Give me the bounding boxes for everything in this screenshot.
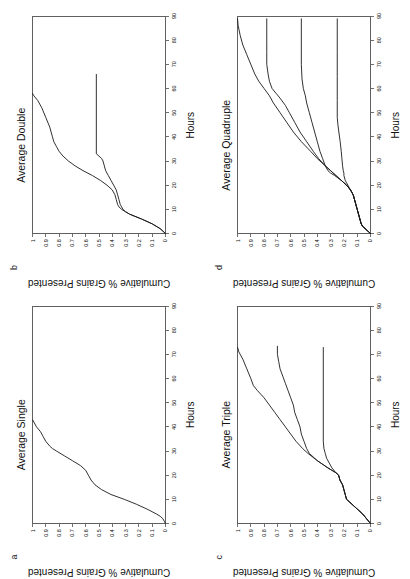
plot-frame [32,16,165,234]
y-tick-label: 0.9 [248,529,254,537]
y-axis-label-text-b: Cumulative % Grains Presented [27,277,169,288]
y-tick-label: 0.2 [136,529,142,537]
x-tick-label: 50 [376,110,382,116]
y-tick-label: 0.5 [301,529,307,537]
x-tick-label: 40 [376,423,382,429]
y-tick-label: 0.3 [327,239,333,247]
x-tick-label: 10 [376,496,382,502]
panel-grid: a Average Single Cumulative % Grains Pre… [0,0,410,579]
y-axis-label-d: Cumulative % Grains Presented [237,276,370,290]
curve-single [32,419,165,523]
y-tick-label: 0.8 [56,529,62,537]
figure-canvas: a Average Single Cumulative % Grains Pre… [0,0,410,579]
y-tick-label: 0.1 [354,239,360,247]
y-axis-label-c: Cumulative % Grains Presented [237,565,370,579]
y-tick-label: 0.7 [274,529,280,537]
x-tick-label: 10 [171,206,177,212]
curve-double-lower [96,74,165,234]
y-tick-label: 0.5 [96,239,102,247]
x-tick-label: 0 [171,232,177,235]
y-tick-label: 0.9 [248,239,254,247]
plot-area-d: 010203040506070809000.10.20.30.40.50.60.… [237,16,370,234]
x-tick-label: 20 [171,182,177,188]
y-tick-label: 0.5 [96,529,102,537]
x-tick-label: 80 [376,37,382,43]
x-tick-label: 60 [376,85,382,91]
y-axis-label-text-d: Cumulative % Grains Presented [232,277,374,288]
x-axis-label-c: Hours [389,306,400,524]
panel-title-a: Average Single [14,290,26,579]
y-tick-label: 0.9 [43,239,49,247]
x-tick-label: 40 [171,134,177,140]
y-tick-label: 0 [162,529,168,532]
panel-title-b: Average Double [14,0,26,290]
x-tick-label: 40 [171,423,177,429]
curve-quad-3 [301,18,370,233]
x-tick-label: 30 [171,447,177,453]
y-tick-label: 0.6 [287,239,293,247]
x-tick-label: 80 [171,327,177,333]
y-tick-label: 0.6 [287,529,293,537]
y-tick-label: 0.2 [136,239,142,247]
panel-a: a Average Single Cumulative % Grains Pre… [0,290,205,579]
y-tick-label: 0.2 [341,239,347,247]
x-tick-label: 60 [376,375,382,381]
x-tick-label: 20 [376,182,382,188]
curve-quad-1 [237,18,370,233]
x-tick-label: 50 [171,110,177,116]
x-tick-label: 90 [171,13,177,19]
x-tick-label: 60 [171,375,177,381]
x-tick-label: 90 [171,302,177,308]
plot-frame [237,16,370,234]
x-tick-label: 30 [376,447,382,453]
x-tick-label: 20 [376,472,382,478]
plot-area-a: 010203040506070809000.10.20.30.40.50.60.… [32,306,165,524]
y-tick-label: 1 [234,239,240,242]
x-tick-label: 0 [376,521,382,524]
x-axis-label-b: Hours [184,16,195,234]
y-tick-label: 0.5 [301,239,307,247]
y-axis-label-text-c: Cumulative % Grains Presented [232,566,374,577]
y-tick-label: 0.1 [149,529,155,537]
y-tick-label: 0 [162,239,168,242]
y-tick-label: 0.2 [341,529,347,537]
x-tick-label: 10 [376,206,382,212]
x-tick-label: 40 [376,134,382,140]
x-tick-label: 0 [376,232,382,235]
x-tick-label: 70 [376,61,382,67]
plot-area-b: 010203040506070809000.10.20.30.40.50.60.… [32,16,165,234]
x-tick-label: 30 [376,158,382,164]
y-tick-label: 0.3 [122,529,128,537]
y-tick-label: 0.3 [122,239,128,247]
plot-svg-b: 010203040506070809000.10.20.30.40.50.60.… [32,16,165,234]
x-tick-label: 90 [376,302,382,308]
y-axis-label-a: Cumulative % Grains Presented [32,565,165,579]
y-tick-label: 0.9 [43,529,49,537]
plot-frame [32,306,165,524]
curve-triple-upper [237,347,370,523]
figure-rotation-frame: a Average Single Cumulative % Grains Pre… [0,0,410,579]
plot-svg-d: 010203040506070809000.10.20.30.40.50.60.… [237,16,370,234]
plot-frame [237,306,370,524]
x-tick-label: 30 [171,158,177,164]
x-tick-label: 80 [171,37,177,43]
y-tick-label: 0.1 [149,239,155,247]
y-tick-label: 0.8 [261,239,267,247]
curve-quad-4 [337,18,370,233]
panel-b: b Average Double Cumulative % Grains Pre… [0,0,205,290]
x-tick-label: 70 [171,61,177,67]
panel-d: d Average Quadruple Cumulative % Grains … [205,0,410,290]
panel-title-c: Average Triple [219,290,231,579]
y-tick-label: 0.7 [69,529,75,537]
y-tick-label: 1 [29,239,35,242]
x-tick-label: 90 [376,13,382,19]
panel-c: c Average Triple Cumulative % Grains Pre… [205,290,410,579]
curve-double-upper [32,93,165,233]
y-tick-label: 0.4 [109,239,115,247]
y-tick-label: 0.7 [69,239,75,247]
y-tick-label: 0.6 [82,239,88,247]
x-tick-label: 50 [171,399,177,405]
y-tick-label: 1 [234,529,240,532]
plot-svg-c: 010203040506070809000.10.20.30.40.50.60.… [237,306,370,524]
y-axis-label-text-a: Cumulative % Grains Presented [27,566,169,577]
